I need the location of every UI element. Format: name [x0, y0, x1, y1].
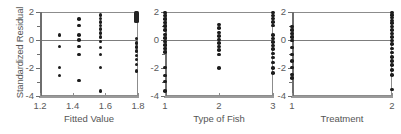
y-tick-label: 0 [270, 34, 286, 45]
x-tick [73, 93, 74, 96]
x-tick [105, 93, 106, 96]
plot-frame [292, 12, 392, 96]
data-point-cluster [134, 11, 138, 23]
data-point [163, 89, 167, 93]
y-tick-label: -2 [270, 62, 286, 73]
data-point [217, 26, 221, 30]
x-tick-label: 1 [280, 100, 304, 111]
data-point [390, 88, 394, 92]
data-point [77, 45, 81, 49]
y-tick-label: 2 [270, 6, 286, 17]
y-tick-major [36, 12, 40, 13]
y-tick-label: -2 [18, 62, 34, 73]
data-point [290, 66, 294, 70]
y-tick-label: -2 [143, 62, 159, 73]
y-tick-label: 0 [18, 34, 34, 45]
x-axis-spine [291, 96, 393, 98]
y-tick-major [36, 68, 40, 69]
plot-frame [40, 12, 138, 96]
x-tick-label: 2 [207, 100, 231, 111]
data-point [163, 24, 167, 28]
data-point [271, 52, 275, 56]
data-point [163, 80, 167, 84]
y-tick-major [36, 40, 40, 41]
y-tick-major [288, 12, 292, 13]
data-point [99, 31, 103, 35]
x-tick-label: 1.8 [126, 100, 150, 111]
data-point [135, 69, 139, 73]
x-axis-title: Fitted Value [29, 113, 149, 124]
data-point [390, 47, 394, 51]
residual-panels-figure: Standardized Residual Fitted Value 20-2-… [0, 0, 401, 134]
data-point [390, 51, 394, 55]
data-point [135, 41, 139, 45]
x-tick [292, 93, 293, 96]
y-tick-minor [162, 54, 165, 55]
data-point [163, 66, 167, 70]
data-point [390, 59, 394, 63]
x-tick-label: 2 [380, 100, 401, 111]
data-point [135, 45, 139, 49]
data-point [390, 73, 394, 77]
y-tick-label: 2 [18, 6, 34, 17]
data-point [77, 17, 81, 21]
y-tick-minor [289, 82, 292, 83]
data-point [217, 66, 221, 70]
data-point [77, 24, 81, 28]
x-tick-label: 1.6 [93, 100, 117, 111]
data-point [77, 33, 81, 37]
y-tick-minor [37, 54, 40, 55]
data-point [390, 55, 394, 59]
y-tick-label: 2 [143, 6, 159, 17]
x-tick [392, 93, 393, 96]
zero-reference-line [40, 40, 138, 41]
x-axis-title: Type of Fish [159, 113, 279, 124]
y-tick-major [288, 96, 292, 97]
data-point [99, 27, 103, 31]
data-point [163, 50, 167, 54]
y-tick-major [161, 96, 165, 97]
x-axis-spine [164, 96, 274, 98]
data-point [290, 59, 294, 63]
data-point [163, 28, 167, 32]
data-point [390, 68, 394, 72]
x-tick-label: 1.2 [28, 100, 52, 111]
x-tick [219, 93, 220, 96]
x-tick-label: 1.4 [61, 100, 85, 111]
x-axis-spine [39, 96, 139, 98]
data-point [99, 89, 103, 93]
data-point [290, 76, 294, 80]
x-axis-title: Treatment [282, 113, 401, 124]
y-tick-major [36, 96, 40, 97]
x-tick [40, 93, 41, 96]
data-point [390, 42, 394, 46]
zero-reference-line [292, 40, 392, 41]
data-point [271, 24, 275, 28]
y-tick-minor [37, 82, 40, 83]
data-point [390, 63, 394, 67]
data-point [135, 49, 139, 53]
data-point [217, 48, 221, 52]
data-point [271, 47, 275, 51]
y-axis-spine [40, 12, 42, 96]
x-tick [165, 93, 166, 96]
x-tick [138, 93, 139, 96]
data-point [77, 38, 81, 42]
data-point [271, 56, 275, 60]
x-tick-label: 1 [153, 100, 177, 111]
y-tick-minor [37, 26, 40, 27]
y-tick-label: 0 [143, 34, 159, 45]
